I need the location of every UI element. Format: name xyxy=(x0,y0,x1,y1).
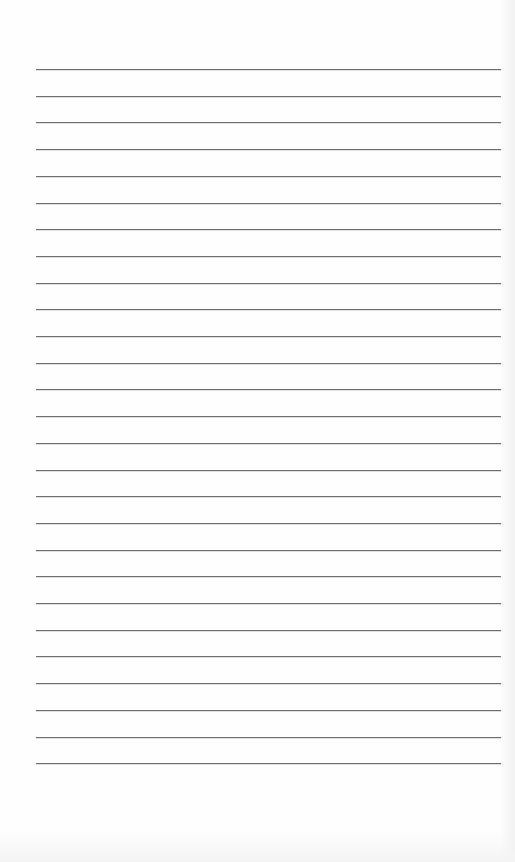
ruled-line xyxy=(36,443,501,444)
ruled-line xyxy=(36,389,501,390)
ruled-line xyxy=(36,176,501,177)
ruled-line xyxy=(36,737,501,738)
ruled-line xyxy=(36,149,501,150)
ruled-line xyxy=(36,309,501,310)
ruled-line xyxy=(36,229,501,230)
lined-paper-page xyxy=(0,0,515,862)
ruled-line xyxy=(36,283,501,284)
ruled-line xyxy=(36,496,501,497)
ruled-line xyxy=(36,710,501,711)
ruled-line xyxy=(36,363,501,364)
ruled-line xyxy=(36,256,501,257)
ruled-line xyxy=(36,470,501,471)
ruled-line xyxy=(36,336,501,337)
ruled-line xyxy=(36,550,501,551)
ruled-line xyxy=(36,656,501,657)
ruled-line xyxy=(36,416,501,417)
ruled-line xyxy=(36,630,501,631)
ruled-line xyxy=(36,203,501,204)
ruled-line xyxy=(36,763,501,764)
ruled-line xyxy=(36,683,501,684)
ruled-line xyxy=(36,122,501,123)
ruled-line xyxy=(36,603,501,604)
ruled-line xyxy=(36,69,501,70)
ruled-line xyxy=(36,576,501,577)
ruled-line xyxy=(36,96,501,97)
ruled-line xyxy=(36,523,501,524)
